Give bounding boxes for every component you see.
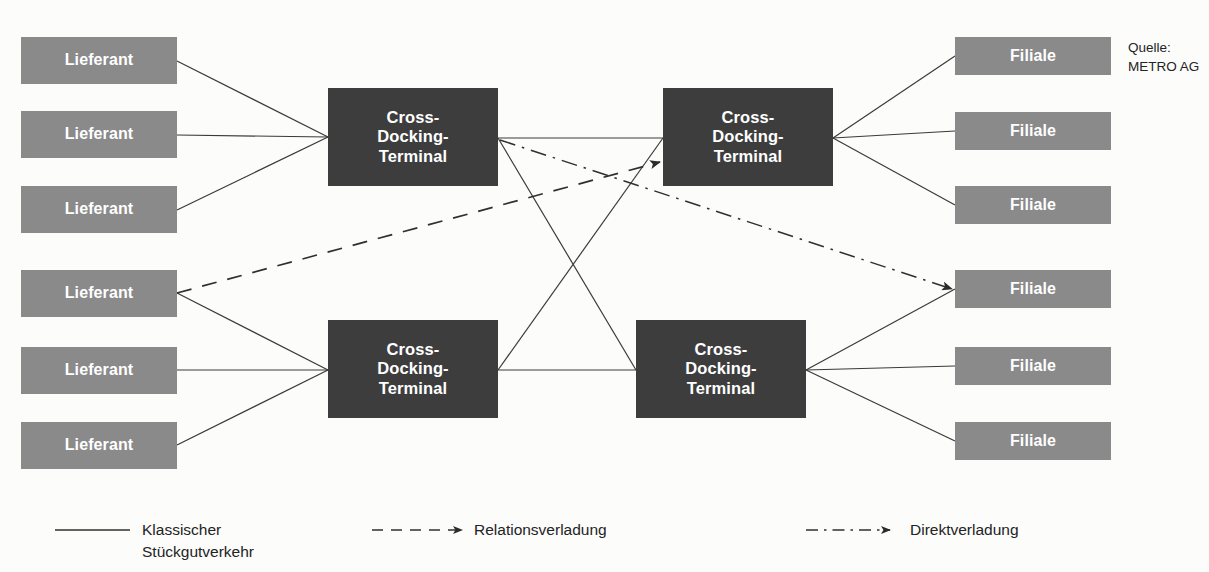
store-node-3: Filiale [955,186,1111,224]
supplier-node-4: Lieferant [21,270,177,317]
store-node-1: Filiale [955,37,1111,75]
legend-label-2: Relationsverladung [474,519,607,541]
supplier-node-6: Lieferant [21,422,177,469]
supplier-node-label: Lieferant [65,361,133,380]
supplier-node-5: Lieferant [21,347,177,394]
store-node-6: Filiale [955,422,1111,460]
store-node-2: Filiale [955,112,1111,150]
store-node-label: Filiale [1010,280,1056,299]
terminal-node-label: Cross- Docking- Terminal [712,108,783,166]
supplier-node-label: Lieferant [65,200,133,219]
edge-terminal-4-to-store-5 [806,366,955,370]
store-node-label: Filiale [1010,196,1056,215]
supplier-node-1: Lieferant [21,37,177,84]
legend-label-3: Direktverladung [910,519,1019,541]
terminal-node-label: Cross- Docking- Terminal [377,108,448,166]
supplier-node-3: Lieferant [21,186,177,233]
terminal-node-2: Cross- Docking- Terminal [663,88,833,186]
edge-terminal-2-to-store-1 [833,56,955,138]
supplier-node-2: Lieferant [21,111,177,158]
store-node-label: Filiale [1010,122,1056,141]
supplier-node-label: Lieferant [65,284,133,303]
store-node-4: Filiale [955,270,1111,308]
edge-terminal-1-to-terminal-4 [498,138,636,370]
edge-terminal-4-to-store-4 [806,289,955,370]
legend-label-1: Klassischer Stückgutverkehr [142,519,254,564]
supplier-node-label: Lieferant [65,125,133,144]
terminal-node-1: Cross- Docking- Terminal [328,88,498,186]
edge-supplier-1-to-terminal-1 [177,61,328,137]
supplier-node-label: Lieferant [65,436,133,455]
source-note: Quelle: METRO AG [1128,38,1199,76]
terminal-node-label: Cross- Docking- Terminal [377,340,448,398]
terminal-node-4: Cross- Docking- Terminal [636,320,806,418]
edge-supplier-2-to-terminal-1 [177,135,328,137]
edge-supplier-6-to-terminal-3 [177,370,328,445]
edge-terminal-2-to-store-2 [833,131,955,138]
store-node-label: Filiale [1010,357,1056,376]
store-node-5: Filiale [955,347,1111,385]
solid-edges [177,56,955,445]
edge-terminal-4-to-store-6 [806,370,955,441]
diagram-canvas: LieferantLieferantLieferantLieferantLief… [0,0,1209,572]
edge-terminal-2-to-store-3 [833,138,955,205]
terminal-node-3: Cross- Docking- Terminal [328,320,498,418]
edge-supplier-4-to-terminal-3 [177,293,328,370]
store-node-label: Filiale [1010,432,1056,451]
store-node-label: Filiale [1010,47,1056,66]
supplier-node-label: Lieferant [65,51,133,70]
terminal-node-label: Cross- Docking- Terminal [685,340,756,398]
edge-supplier-3-to-terminal-1 [177,137,328,210]
